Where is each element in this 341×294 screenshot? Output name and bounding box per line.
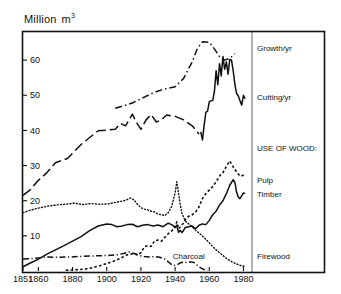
series-line-pulp — [66, 161, 245, 270]
y-tick-label-60: 60 — [30, 55, 40, 65]
chart-figure: Millionm3 185118601880190019201940196019… — [0, 0, 341, 294]
legend-group: Growth/yrCutting/yrUSE OF WOOD:PulpTimbe… — [257, 44, 317, 261]
legend-label-pulp: Pulp — [257, 176, 274, 185]
x-tick-label-1980: 1980 — [233, 274, 253, 284]
x-tick-label-1860: 1860 — [28, 274, 48, 284]
data-series-group — [23, 42, 245, 270]
legend-label-timber: Timber — [257, 190, 282, 199]
y-tick-label-50: 50 — [30, 90, 40, 100]
legend-label-cutting: Cutting/yr — [257, 93, 292, 102]
x-tick-label-1920: 1920 — [131, 274, 151, 284]
series-line-cutting-early — [23, 114, 199, 195]
legend-label-use-of-wood-header: USE OF WOOD: — [257, 144, 317, 153]
y-tick-label-10: 10 — [30, 231, 40, 241]
annotations-group: Charcoal — [173, 252, 205, 261]
x-tick-label-1900: 1900 — [97, 274, 117, 284]
y-tick-label-30: 30 — [30, 161, 40, 171]
x-tick-label-1880: 1880 — [63, 274, 83, 284]
x-tick-label-1940: 1940 — [165, 274, 185, 284]
x-tick-label-1960: 1960 — [199, 274, 219, 284]
chart-plot: 1851186018801900192019401960198010203040… — [0, 0, 341, 294]
legend-label-firewood: Firewood — [257, 252, 290, 261]
annotation-charcoal: Charcoal — [173, 252, 205, 261]
y-tick-label-40: 40 — [30, 126, 40, 136]
axis-ticks-group — [23, 60, 243, 271]
series-line-cutting-late — [201, 57, 245, 140]
y-tick-label-20: 20 — [30, 196, 40, 206]
legend-label-growth: Growth/yr — [257, 44, 292, 53]
